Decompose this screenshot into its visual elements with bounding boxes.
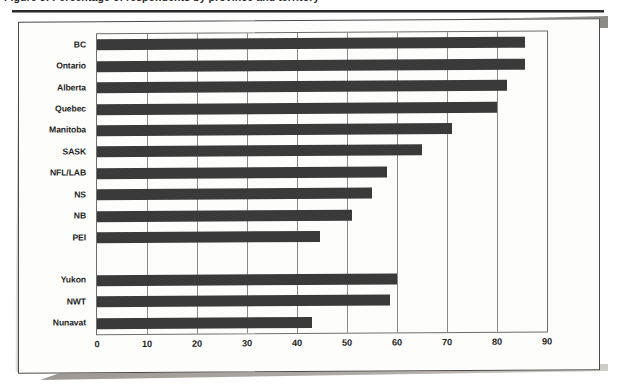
bar-fill bbox=[97, 209, 352, 222]
x-axis-labels: 0102030405060708090 bbox=[96, 337, 548, 356]
x-axis-label-90: 90 bbox=[542, 337, 552, 347]
figure-caption: Figure 5: Percentage of respondents by p… bbox=[0, 0, 618, 3]
x-axis-label-40: 40 bbox=[292, 338, 302, 348]
x-axis-label-60: 60 bbox=[392, 337, 402, 347]
y-axis-label-nfl-lab: NFL/LAB bbox=[50, 168, 86, 178]
y-axis-label-nwt: NWT bbox=[67, 296, 86, 306]
bar-fill bbox=[97, 166, 387, 179]
screenshot-root: Figure 5: Percentage of respondents by p… bbox=[0, 0, 618, 391]
bar-nunavat bbox=[97, 317, 312, 329]
horizontal-rule-highlight bbox=[12, 12, 604, 13]
bar-fill bbox=[97, 295, 390, 308]
bar-manitoba bbox=[97, 123, 452, 136]
bar-sask bbox=[97, 145, 422, 158]
bars-group bbox=[97, 32, 547, 335]
y-axis-label-alberta: Alberta bbox=[57, 82, 86, 92]
y-axis-label-nunavat: Nunavat bbox=[53, 318, 86, 328]
y-axis-label-nb: NB bbox=[74, 210, 86, 220]
x-axis-label-70: 70 bbox=[442, 337, 452, 347]
plot-area bbox=[96, 31, 548, 336]
y-axis-label-manitoba: Manitoba bbox=[49, 125, 86, 135]
y-axis-label-quebec: Quebec bbox=[55, 103, 86, 113]
bar-bc bbox=[97, 37, 525, 51]
bar-yukon bbox=[97, 273, 397, 286]
bar-nb bbox=[97, 209, 352, 222]
bar-fill bbox=[97, 145, 422, 158]
x-axis-label-30: 30 bbox=[242, 338, 252, 348]
x-axis-label-20: 20 bbox=[192, 339, 202, 349]
y-axis-labels: BCOntarioAlbertaQuebecManitobaSASKNFL/LA… bbox=[18, 33, 92, 333]
x-axis-label-10: 10 bbox=[142, 339, 152, 349]
y-axis-label-sask: SASK bbox=[63, 146, 86, 156]
x-axis-label-80: 80 bbox=[492, 337, 502, 347]
bar-ns bbox=[97, 188, 372, 201]
bar-fill bbox=[97, 188, 372, 201]
bar-fill bbox=[97, 231, 320, 243]
y-axis-label-ns: NS bbox=[74, 189, 86, 199]
bar-fill bbox=[97, 317, 312, 329]
x-axis-label-50: 50 bbox=[342, 338, 352, 348]
bar-nwt bbox=[97, 295, 390, 308]
y-axis-label-yukon: Yukon bbox=[61, 275, 86, 285]
bar-quebec bbox=[97, 101, 497, 114]
bar-fill bbox=[97, 101, 497, 114]
bar-fill bbox=[97, 123, 452, 136]
bar-ontario bbox=[97, 58, 525, 72]
bar-pei bbox=[97, 231, 320, 243]
y-axis-label-pei: PEI bbox=[72, 232, 86, 242]
x-axis-label-0: 0 bbox=[94, 339, 99, 349]
bar-fill bbox=[97, 273, 397, 286]
y-axis-label-ontario: Ontario bbox=[56, 60, 86, 70]
bar-fill bbox=[97, 58, 525, 72]
figure-caption-strip: Figure 5: Percentage of respondents by p… bbox=[0, 0, 618, 5]
bar-fill bbox=[97, 80, 507, 94]
bar-alberta bbox=[97, 80, 507, 94]
bar-fill bbox=[97, 37, 525, 51]
bar-nfl-lab bbox=[97, 166, 387, 179]
bar-chart: BCOntarioAlbertaQuebecManitobaSASKNFL/LA… bbox=[18, 18, 598, 372]
y-axis-label-bc: BC bbox=[74, 39, 86, 49]
